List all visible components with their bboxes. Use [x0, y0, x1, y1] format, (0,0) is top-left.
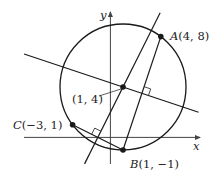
center-point	[120, 84, 126, 90]
x-axis-label: x	[193, 139, 200, 153]
point-coords-B: (1, −1)	[138, 157, 179, 171]
point-label-B: B(1, −1)	[129, 157, 179, 171]
point-name-A: A	[169, 29, 178, 43]
point-C	[70, 122, 76, 128]
perp-bisector-AB	[24, 54, 199, 112]
point-name-B: B	[129, 157, 138, 171]
point-name-C: C	[13, 118, 22, 132]
point-coords-A: (4, 8)	[178, 29, 209, 43]
point-B	[120, 147, 126, 153]
y-axis-label: y	[99, 8, 107, 22]
point-label-C: C(−3, 1)	[13, 118, 62, 132]
point-coords-C: (−3, 1)	[22, 118, 63, 132]
point-label-A: A(4, 8)	[169, 29, 209, 43]
center-label: (1, 4)	[72, 92, 103, 106]
diagram-canvas: xy(1, 4)A(4, 8)B(1, −1)C(−3, 1)	[0, 0, 218, 179]
point-A	[158, 34, 164, 40]
